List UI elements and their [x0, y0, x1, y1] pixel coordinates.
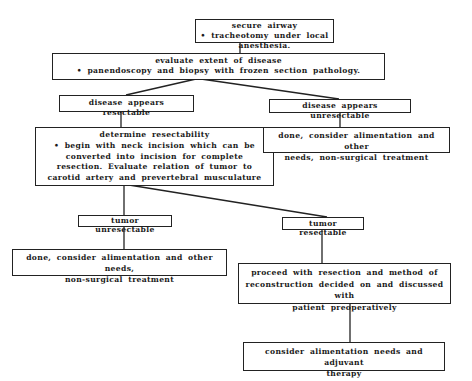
node-line: patient preoperatively: [242, 302, 447, 314]
node-disease-unresectable: disease appears unresectable: [269, 99, 411, 113]
node-line: reconstruction decided on and discussed …: [242, 279, 447, 302]
node-line: resection. Evaluate relation of tumor to: [39, 162, 270, 173]
node-evaluate-extent: evaluate extent of disease • panendoscop…: [52, 53, 385, 80]
node-label: disease appears resectable: [63, 98, 190, 118]
node-line: needs, non-surgical treatment: [267, 152, 446, 163]
node-line: therapy: [247, 368, 441, 379]
node-disease-resectable: disease appears resectable: [59, 95, 194, 112]
node-title: secure airway: [199, 21, 330, 31]
node-line: converted into incision for complete: [39, 152, 270, 163]
node-label: tumor unresectable: [82, 216, 168, 234]
node-tumor-resectable: tumor resectable: [282, 217, 364, 230]
node-line: non-surgical treatment: [16, 274, 223, 285]
node-done-right: done, consider alimentation and other ne…: [263, 127, 450, 153]
edge-evaluate-to-disease-unresectable: [201, 79, 339, 99]
node-title: determine resectability: [39, 130, 270, 141]
node-line: done, consider alimentation and other ne…: [16, 252, 223, 274]
node-bullet: • tracheotomy under local anesthesia.: [199, 31, 330, 51]
node-label: disease appears unresectable: [273, 101, 407, 121]
node-line: carotid artery and prevertebral musculat…: [39, 173, 270, 184]
edge-evaluate-to-disease-resectable: [126, 79, 196, 95]
flowchart: secure airway • tracheotomy under local …: [0, 0, 472, 381]
edge-determine-to-tumor-resectable: [129, 185, 327, 217]
node-line: done, consider alimentation and other: [267, 130, 446, 152]
node-line: • begin with neck incision which can be: [39, 141, 270, 152]
node-line: proceed with resection and method of: [242, 267, 447, 279]
node-secure-airway: secure airway • tracheotomy under local …: [195, 19, 334, 43]
node-adjuvant: consider alimentation needs and adjuvant…: [243, 342, 445, 371]
node-proceed-resection: proceed with resection and method of rec…: [238, 263, 451, 304]
node-line: consider alimentation needs and adjuvant: [247, 346, 441, 368]
node-title: evaluate extent of disease: [56, 56, 381, 66]
node-determine-resectability: determine resectability • begin with nec…: [35, 127, 274, 186]
node-bullet: • panendoscopy and biopsy with frozen se…: [56, 66, 381, 76]
node-label: tumor resectable: [286, 219, 360, 237]
node-done-left: done, consider alimentation and other ne…: [12, 249, 227, 276]
node-tumor-unresectable: tumor unresectable: [78, 215, 172, 227]
